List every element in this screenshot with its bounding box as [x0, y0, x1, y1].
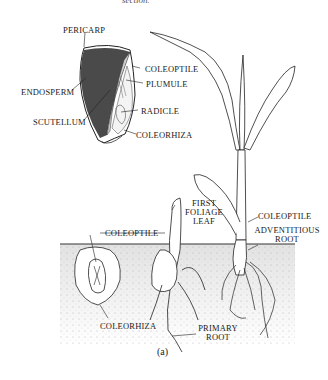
- figure-caption: (a): [157, 346, 168, 357]
- label-coleoptile-right: COLEOPTILE: [258, 212, 311, 221]
- label-scutellum: SCUTELLUM: [33, 118, 86, 127]
- label-first-foliage-leaf: FIRST FOLIAGE LEAF: [184, 199, 224, 226]
- label-pericarp: PERICARP: [63, 26, 105, 35]
- label-coleoptile-left: COLEOPTILE: [105, 229, 158, 238]
- germination-illustration: [0, 0, 328, 380]
- label-coleoptile-seed: COLEOPTILE: [145, 65, 198, 74]
- label-primary-root: PRIMARY ROOT: [196, 324, 240, 342]
- label-endosperm: ENDOSPERM: [21, 88, 74, 97]
- label-coleorhiza-seed: COLEORHIZA: [136, 131, 192, 140]
- label-coleorhiza-bottom: COLEORHIZA: [100, 322, 156, 331]
- label-radicle: RADICLE: [141, 107, 179, 116]
- label-adventitious-root: ADVENTITIOUS ROOT: [246, 226, 328, 244]
- label-plumule: PLUMULE: [146, 80, 188, 89]
